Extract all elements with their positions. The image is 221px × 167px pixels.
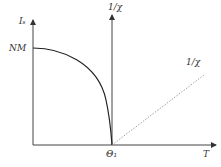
y-axis-label: Iₛ (19, 16, 26, 26)
t-axis-label: T (203, 149, 209, 159)
chi-axis-label: 1/χ (108, 2, 122, 12)
theta-label: Θ₁ (106, 149, 117, 159)
magnetization-curve (33, 48, 112, 145)
inverse-susceptibility-line (112, 75, 204, 145)
chi-line-label: 1/χ (186, 57, 200, 67)
nm-label: NM (9, 43, 26, 53)
diagram-canvas (0, 0, 221, 167)
